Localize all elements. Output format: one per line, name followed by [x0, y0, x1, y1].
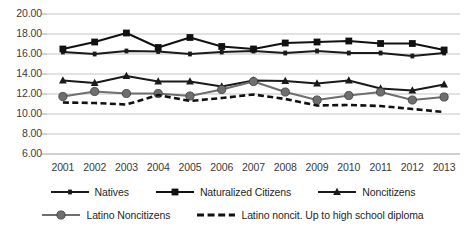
chart-legend-row-2: Latino NoncitizensLatino noncit. Up to h… — [0, 209, 465, 221]
x-tick-label: 2004 — [141, 161, 175, 173]
legend-label: Latino Noncitizens — [86, 209, 170, 221]
x-tick-label: 2001 — [46, 161, 80, 173]
legend-entry[interactable]: Naturalized Citizens — [155, 186, 291, 198]
legend-key-square — [155, 186, 195, 198]
x-tick-label: 2008 — [268, 161, 302, 173]
y-tick-label: 18.00 — [0, 27, 42, 39]
legend-label: Naturalized Citizens — [200, 186, 291, 198]
legend-key-circle — [41, 209, 81, 221]
chart-legend-row-1: NativesNaturalized CitizensNoncitizens — [0, 186, 465, 198]
x-tick-label: 2011 — [364, 161, 398, 173]
cut-off-caption — [8, 231, 248, 238]
y-tick-label: 20.00 — [0, 7, 42, 19]
legend-entry[interactable]: Natives — [50, 186, 129, 198]
y-tick-label: 10.00 — [0, 107, 42, 119]
legend-entry[interactable]: Noncitizens — [317, 186, 415, 198]
legend-key-none — [196, 209, 236, 221]
y-tick-label: 12.00 — [0, 87, 42, 99]
y-tick-label: 16.00 — [0, 47, 42, 59]
legend-key-triangle — [317, 186, 357, 198]
legend-label: Latino noncit. Up to high school diploma — [241, 209, 423, 221]
series-1 — [59, 30, 447, 54]
legend-key-small-square — [50, 186, 90, 198]
x-tick-label: 2003 — [109, 161, 143, 173]
chart-plot-area — [0, 0, 465, 239]
legend-entry[interactable]: Latino Noncitizens — [41, 209, 170, 221]
x-tick-label: 2012 — [395, 161, 429, 173]
legend-label: Natives — [95, 186, 129, 198]
line-chart: 20.0018.0016.0014.0012.0010.008.006.00 2… — [0, 0, 465, 239]
legend-label: Noncitizens — [362, 186, 415, 198]
series-3 — [59, 77, 448, 104]
x-tick-label: 2010 — [332, 161, 366, 173]
x-tick-label: 2005 — [173, 161, 207, 173]
y-tick-label: 14.00 — [0, 67, 42, 79]
legend-entry[interactable]: Latino noncit. Up to high school diploma — [196, 209, 423, 221]
y-tick-label: 8.00 — [0, 127, 42, 139]
x-tick-label: 2002 — [78, 161, 112, 173]
x-tick-label: 2007 — [237, 161, 271, 173]
x-tick-label: 2006 — [205, 161, 239, 173]
series-4 — [63, 95, 444, 113]
y-tick-label: 6.00 — [0, 147, 42, 159]
x-tick-label: 2013 — [427, 161, 461, 173]
x-tick-label: 2009 — [300, 161, 334, 173]
